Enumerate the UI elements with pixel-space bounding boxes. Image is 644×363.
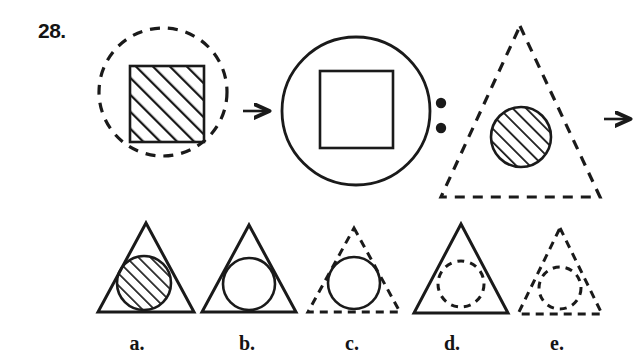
term3-inner-hatched-circle [491, 107, 551, 167]
colon-dot-lower [436, 123, 446, 133]
puzzle-figure-canvas [0, 0, 644, 363]
option-b-inner-plain-circle [223, 258, 275, 310]
term3-figure [441, 26, 600, 197]
option-d-figure[interactable] [414, 224, 508, 313]
option-e-figure[interactable] [518, 228, 602, 314]
option-c-figure[interactable] [308, 228, 400, 312]
analogy-colon [436, 98, 446, 133]
option-d-inner-dashed-circle [438, 261, 484, 307]
option-b-label[interactable]: b. [227, 333, 267, 353]
option-b-outer-solid-triangle [202, 225, 296, 312]
option-a-label[interactable]: a. [117, 333, 157, 353]
option-c-outer-dashed-triangle [308, 228, 400, 312]
option-d-outer-solid-triangle [414, 224, 508, 313]
colon-dot-upper [436, 98, 446, 108]
option-a-inner-hatched-circle [117, 256, 171, 310]
term1-inner-hatched-square [130, 66, 204, 142]
option-a-figure[interactable] [98, 223, 194, 312]
option-d-label[interactable]: d. [432, 333, 472, 353]
option-c-inner-plain-circle [328, 257, 380, 309]
term2-figure [282, 37, 430, 185]
analogy-question-panel: 28. [0, 0, 644, 363]
option-e-inner-dashed-circle [539, 267, 581, 309]
option-b-figure[interactable] [202, 225, 296, 312]
option-e-label[interactable]: e. [537, 333, 577, 353]
option-c-label[interactable]: c. [332, 333, 372, 353]
term2-outer-solid-circle [282, 37, 430, 185]
term2-inner-plain-square [320, 71, 393, 148]
option-e-outer-dashed-triangle [518, 228, 602, 314]
term1-figure [99, 28, 227, 156]
